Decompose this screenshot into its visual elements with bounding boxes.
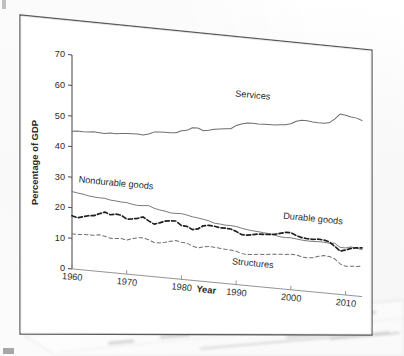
x-tick-label: 1960 <box>62 271 83 283</box>
scanned-page: 010203040506070 196019701980199020002010… <box>0 0 404 356</box>
y-tick-label: 40 <box>55 141 65 151</box>
x-tick-label: 1980 <box>171 281 192 293</box>
y-tick-label: 50 <box>55 111 65 121</box>
x-tick-label: 1990 <box>226 287 247 299</box>
x-axis-title: Year <box>196 283 217 296</box>
y-tick-label: 20 <box>55 202 65 212</box>
y-tick-label: 10 <box>55 233 65 243</box>
y-tick-label: 30 <box>55 172 65 182</box>
x-tick-label: 2000 <box>280 292 301 304</box>
y-tick-label: 70 <box>55 49 65 59</box>
y-tick-label: 60 <box>55 80 65 90</box>
y-axis-title: Percentage of GDP <box>29 120 40 205</box>
x-tick-label: 1970 <box>116 276 137 288</box>
x-tick-label: 2010 <box>335 297 356 309</box>
figure-sheet: 010203040506070 196019701980199020002010… <box>0 0 404 356</box>
